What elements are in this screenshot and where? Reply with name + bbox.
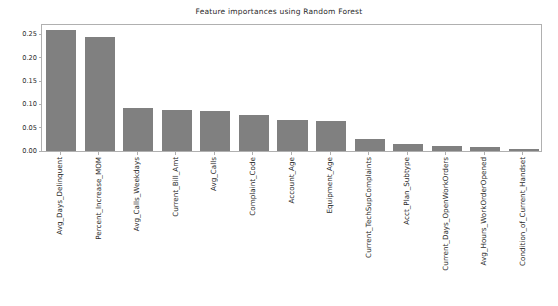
x-tick-mark bbox=[252, 152, 253, 155]
bar[interactable] bbox=[277, 120, 307, 151]
x-tick-mark bbox=[175, 152, 176, 155]
x-tick-label: Avg_Days_Delinquent bbox=[56, 157, 64, 235]
bar-slot bbox=[277, 25, 307, 151]
x-tick-mark bbox=[407, 152, 408, 155]
bar[interactable] bbox=[509, 149, 539, 151]
x-tick-label: Current_Bill_Amt bbox=[172, 157, 180, 217]
y-tick-label: 0.00 bbox=[22, 146, 37, 156]
bar[interactable] bbox=[239, 115, 269, 151]
bar[interactable] bbox=[123, 108, 153, 151]
y-tick-mark bbox=[39, 127, 42, 128]
bar-slot bbox=[393, 25, 423, 151]
bar[interactable] bbox=[85, 37, 115, 151]
bar[interactable] bbox=[470, 147, 500, 151]
y-tick-label: 0.05 bbox=[22, 123, 37, 133]
x-tick-mark bbox=[137, 152, 138, 155]
x-axis-ticks: Avg_Days_DelinquentPercent_Increase_MOMA… bbox=[41, 152, 542, 306]
x-tick-label: Current_Days_OpenWorkOrders bbox=[442, 157, 450, 271]
x-tick-mark bbox=[330, 152, 331, 155]
y-tick-label: 0.10 bbox=[22, 99, 37, 109]
bar-slot bbox=[432, 25, 462, 151]
y-tick-mark bbox=[39, 57, 42, 58]
x-tick-label: Current_TechSupComplaints bbox=[365, 157, 373, 258]
y-tick-label: 0.15 bbox=[22, 76, 37, 86]
x-tick-label: Account_Age bbox=[288, 157, 296, 204]
x-tick-label: Percent_Increase_MOM bbox=[95, 157, 103, 240]
x-tick-label: Condition_of_Current_Handset bbox=[519, 157, 527, 266]
x-tick-label: Avg_Hours_WorkOrderOpened bbox=[480, 157, 488, 265]
plot-area: 0.000.050.100.150.200.25 bbox=[42, 25, 541, 151]
bar-slot bbox=[355, 25, 385, 151]
bar[interactable] bbox=[162, 110, 192, 151]
bar[interactable] bbox=[46, 30, 76, 151]
y-tick-mark bbox=[39, 104, 42, 105]
y-tick-mark bbox=[39, 81, 42, 82]
y-tick-label: 0.20 bbox=[22, 53, 37, 63]
x-tick-mark bbox=[484, 152, 485, 155]
figure-canvas: Feature importances using Random Forest … bbox=[0, 0, 558, 306]
bar[interactable] bbox=[393, 144, 423, 151]
bar-slot bbox=[46, 25, 76, 151]
x-tick-mark bbox=[98, 152, 99, 155]
x-tick-mark bbox=[60, 152, 61, 155]
x-tick-label: Equipment_Age bbox=[326, 157, 334, 214]
x-tick-mark bbox=[445, 152, 446, 155]
bar-slot bbox=[123, 25, 153, 151]
x-tick-mark bbox=[214, 152, 215, 155]
bar[interactable] bbox=[355, 139, 385, 151]
bar-slot bbox=[509, 25, 539, 151]
bar-slot bbox=[470, 25, 500, 151]
bar-slot bbox=[239, 25, 269, 151]
bar[interactable] bbox=[200, 111, 230, 151]
y-tick-mark bbox=[39, 34, 42, 35]
y-tick-label: 0.25 bbox=[22, 29, 37, 39]
chart-title: Feature importances using Random Forest bbox=[0, 7, 558, 16]
x-tick-label: Avg_Calls bbox=[210, 157, 218, 191]
bar[interactable] bbox=[316, 121, 346, 151]
x-tick-mark bbox=[368, 152, 369, 155]
plot-axes: 0.000.050.100.150.200.25 bbox=[41, 24, 542, 152]
x-tick-label: Acct_Plan_Subtype bbox=[403, 157, 411, 225]
bar-slot bbox=[162, 25, 192, 151]
x-tick-mark bbox=[291, 152, 292, 155]
x-tick-label: Complaint_Code bbox=[249, 157, 257, 216]
bar-series bbox=[42, 25, 541, 151]
x-tick-mark bbox=[522, 152, 523, 155]
bar-slot bbox=[85, 25, 115, 151]
x-tick-label: Avg_Calls_Weekdays bbox=[133, 157, 141, 231]
bar[interactable] bbox=[432, 146, 462, 151]
bar-slot bbox=[200, 25, 230, 151]
bar-slot bbox=[316, 25, 346, 151]
